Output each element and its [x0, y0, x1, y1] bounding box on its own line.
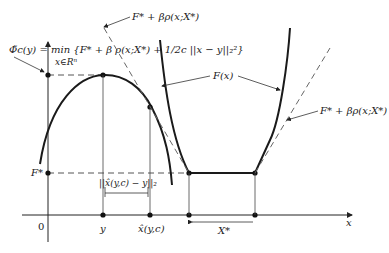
phi-point-left: [45, 72, 50, 77]
xhat-axis-point: [147, 212, 152, 217]
top-bound-label: F* + βρ(x;X*): [132, 12, 199, 22]
origin-label: 0: [38, 222, 44, 232]
f-star-label: F*: [31, 168, 43, 178]
y-axis-point: [100, 212, 105, 217]
distance-label: ||x̂(y,c) − y||₂: [99, 179, 157, 188]
f-curve-label: F(x): [213, 71, 233, 81]
phi-label-arrow: [14, 57, 44, 72]
phi-curve: [40, 75, 172, 185]
xhat-tick-label: x̂(y,c): [138, 224, 165, 234]
f-star-point-left: [45, 170, 50, 175]
xstar-label: X*: [218, 226, 230, 236]
right-bound-dashed: [255, 48, 330, 173]
right-bound-label: F* + βρ(x;X*): [320, 106, 387, 116]
diagram-canvas: [0, 0, 389, 253]
y-tick-label: y: [100, 224, 106, 234]
phi-definition-label: Φ̃c(y) = min {F* + β ρ(x;X*) + 1/2c ||x …: [9, 45, 244, 55]
phi-definition-subscript: x∈Rⁿ: [55, 58, 77, 67]
f-label-arrow-left: [162, 76, 210, 86]
f-label-arrow-right: [238, 76, 280, 90]
top-bound-arrow: [104, 17, 130, 27]
x-axis-label: x: [346, 218, 352, 228]
